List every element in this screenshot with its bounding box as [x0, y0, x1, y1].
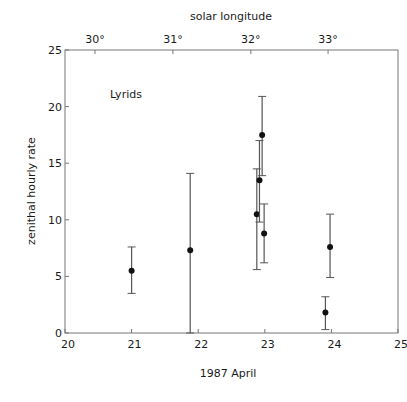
lyrids-zhr-chart: 202122232425051015202530°31°32°33° Lyrid…: [0, 0, 407, 402]
chart-annotation-label: Lyrids: [110, 88, 142, 101]
x-tick-label: 21: [128, 338, 142, 351]
top-axis-tick-label: 32°: [241, 33, 261, 46]
data-points: [128, 96, 334, 333]
data-point: [128, 247, 136, 293]
top-axis-tick-label: 30°: [85, 33, 105, 46]
point-marker: [261, 230, 267, 236]
x-tick-label: 25: [394, 338, 407, 351]
x-axis-title: 1987 April: [200, 367, 257, 380]
data-point: [186, 173, 194, 333]
y-tick-label: 15: [48, 157, 62, 170]
x-tick-label: 24: [327, 338, 341, 351]
top-axis-tick-label: 33°: [318, 33, 338, 46]
ticks: 202122232425051015202530°31°32°33°: [48, 33, 407, 351]
point-marker: [129, 268, 135, 274]
point-marker: [187, 247, 193, 253]
y-tick-label: 10: [48, 214, 62, 227]
x-tick-label: 22: [194, 338, 208, 351]
point-marker: [259, 132, 265, 138]
y-tick-label: 20: [48, 101, 62, 114]
data-point: [321, 297, 329, 330]
top-axis-tick-label: 31°: [163, 33, 183, 46]
data-point: [326, 214, 334, 277]
point-marker: [327, 244, 333, 250]
y-tick-label: 5: [55, 270, 62, 283]
data-point: [260, 204, 268, 263]
point-marker: [322, 310, 328, 316]
y-axis-title: zenithal hourly rate: [25, 137, 38, 245]
chart-container: 202122232425051015202530°31°32°33° Lyrid…: [0, 0, 407, 402]
y-tick-label: 0: [55, 327, 62, 340]
top-axis-title: solar longitude: [190, 10, 272, 23]
point-marker: [256, 177, 262, 183]
x-tick-label: 23: [261, 338, 275, 351]
y-tick-label: 25: [48, 44, 62, 57]
x-tick-label: 20: [61, 338, 75, 351]
